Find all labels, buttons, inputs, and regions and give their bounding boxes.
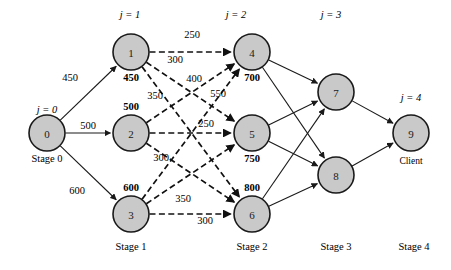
stage-footer-stage2: Stage 2 — [236, 241, 267, 252]
edge-weight-n1-to-n4: 250 — [184, 29, 200, 40]
node-7[interactable]: 7 — [318, 74, 354, 110]
stage-footer-stage1: Stage 1 — [115, 241, 146, 252]
edge-weight-n3-to-n4: 550 — [210, 88, 226, 99]
node-label-3: 3 — [128, 209, 134, 221]
edge-n1-to-n6 — [142, 67, 239, 197]
node-3[interactable]: 3 — [113, 196, 149, 232]
node-label-8: 8 — [333, 170, 339, 182]
edge-weight-n3-to-n6: 300 — [197, 215, 213, 226]
network-diagram-canvas: 450500600250300400350250300550350300 014… — [0, 0, 451, 270]
stage-header-j0: j = 0 — [35, 104, 58, 115]
edge-n7-to-n9 — [352, 101, 393, 123]
node-label-0: 0 — [44, 128, 50, 140]
node-label-6: 6 — [249, 209, 255, 221]
node-label-2: 2 — [128, 128, 134, 140]
edge-weight-n2-to-n5: 250 — [198, 118, 214, 129]
edge-weight-n1-to-n5: 300 — [167, 54, 183, 65]
node-0[interactable]: 0 — [29, 115, 65, 151]
node-value-3: 600 — [123, 182, 139, 193]
edge-weight-n0-to-n2: 500 — [80, 120, 96, 131]
edge-n5-to-n7 — [269, 101, 318, 125]
node-value-4: 700 — [244, 72, 260, 83]
node-1[interactable]: 1 — [113, 34, 149, 70]
node-label-5: 5 — [249, 128, 255, 140]
node-value-2: 500 — [123, 101, 139, 112]
stage-header-j1: j = 1 — [118, 9, 141, 20]
node-label-7: 7 — [333, 87, 339, 99]
edge-n4-to-n7 — [269, 60, 318, 83]
edge-n8-to-n9 — [352, 143, 393, 166]
edge-weight-n0-to-n1: 450 — [62, 72, 78, 83]
edge-weight-n2-to-n6: 300 — [153, 152, 169, 163]
stage-footer-stage0: Stage 0 — [31, 153, 62, 164]
network-diagram: 450500600250300400350250300550350300 014… — [0, 0, 451, 270]
stage-footer-stage3: Stage 3 — [320, 241, 351, 252]
stage-header-j2: j = 2 — [224, 9, 247, 20]
edge-weight-n1-to-n6: 400 — [186, 73, 202, 84]
edge-weight-n0-to-n3: 600 — [69, 185, 85, 196]
node-value-5: 750 — [244, 153, 260, 164]
stage-header-j4: j = 4 — [399, 92, 422, 103]
node-2[interactable]: 2 — [113, 115, 149, 151]
node-4[interactable]: 4 — [234, 34, 270, 70]
node-value-1: 450 — [123, 72, 139, 83]
node-6[interactable]: 6 — [234, 196, 270, 232]
node-label-1: 1 — [128, 47, 134, 59]
edge-weight-n3-to-n5: 350 — [175, 193, 191, 204]
node-label-9: 9 — [408, 128, 414, 140]
node-5[interactable]: 5 — [234, 115, 270, 151]
node-9[interactable]: 9 — [393, 115, 429, 151]
client-label: Client — [399, 156, 423, 166]
node-label-4: 4 — [249, 47, 255, 59]
stage-header-j3: j = 3 — [319, 9, 342, 20]
stage-footer-stage4: Stage 4 — [398, 241, 430, 252]
node-value-6: 800 — [244, 182, 260, 193]
node-8[interactable]: 8 — [318, 157, 354, 193]
edge-n6-to-n8 — [269, 184, 318, 207]
edge-weight-n2-to-n4: 350 — [147, 90, 163, 101]
